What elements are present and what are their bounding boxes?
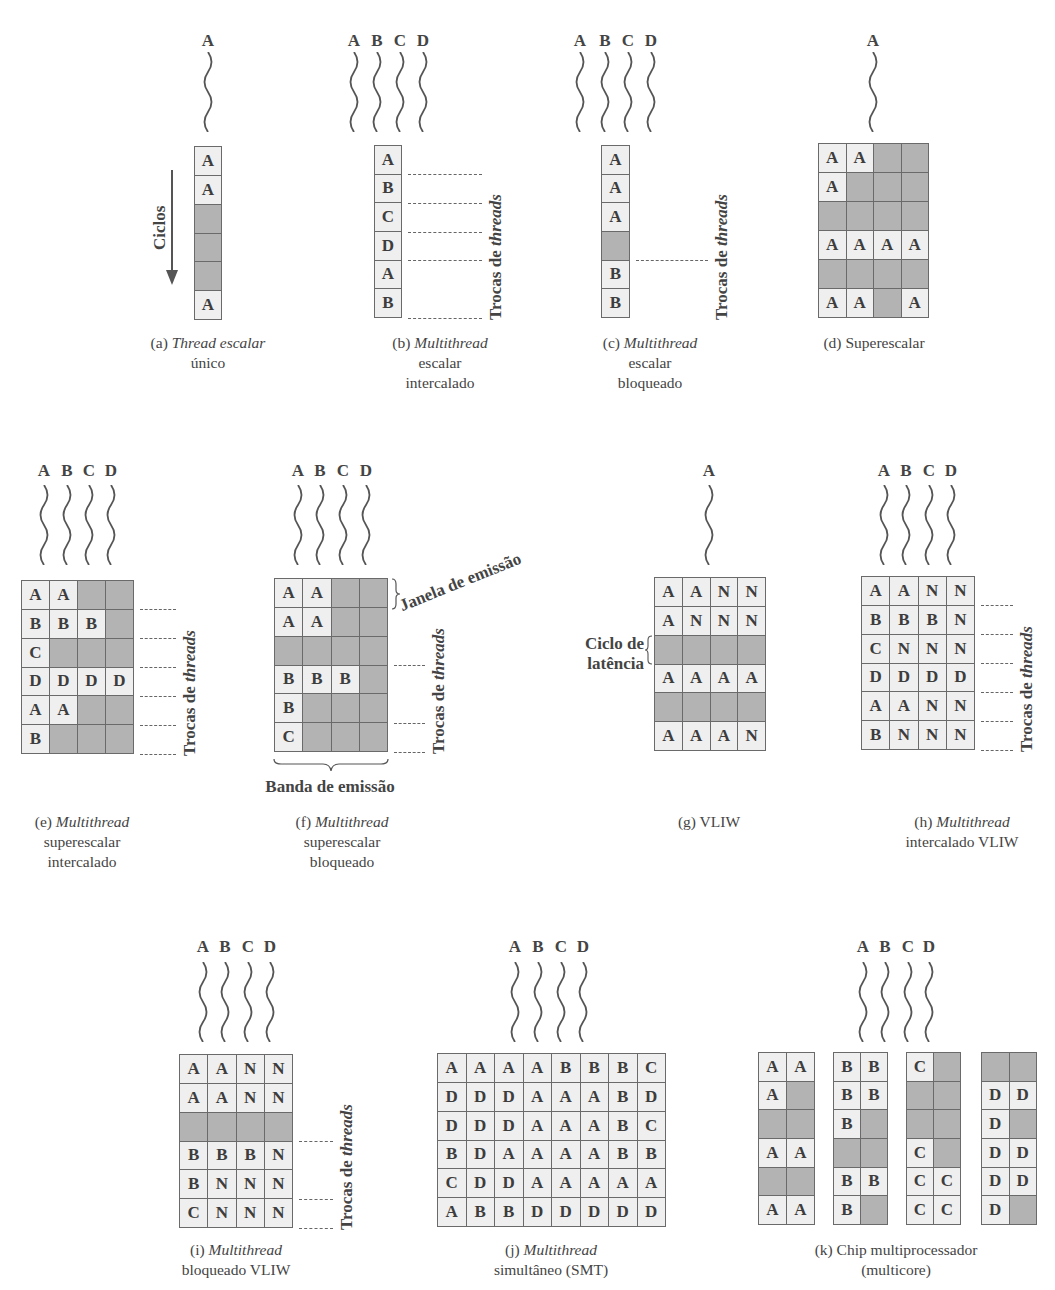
- issue-slot: N: [919, 577, 946, 605]
- thread-switch-line: [394, 752, 425, 753]
- caption-k: (k) Chip multiprocessador(multicore): [815, 1240, 978, 1280]
- issue-slot: D: [375, 232, 401, 260]
- issue-slot: N: [947, 692, 974, 720]
- issue-slot: A: [655, 665, 682, 693]
- empty-issue-slot: [303, 723, 330, 751]
- issue-slot: B: [834, 1110, 860, 1138]
- issue-slot: D: [919, 664, 946, 692]
- empty-issue-slot: [275, 637, 302, 665]
- empty-issue-slot: [874, 144, 901, 172]
- issue-slot: N: [947, 721, 974, 749]
- caption-g: (g) VLIW: [678, 812, 740, 832]
- issue-slot: A: [819, 231, 846, 259]
- empty-issue-slot: [332, 694, 359, 722]
- empty-issue-slot: [1010, 1053, 1037, 1081]
- thread-label: C: [919, 462, 939, 479]
- thread-switch-line: [140, 725, 176, 726]
- thread-switches-prefix: Trocas de: [180, 682, 199, 756]
- issue-slot: B: [237, 1142, 264, 1170]
- empty-issue-slot: [106, 725, 133, 753]
- thread-wave-icon: [264, 962, 278, 1042]
- empty-issue-slot: [78, 581, 105, 609]
- issue-slot: A: [208, 1084, 235, 1112]
- thread-label: D: [641, 32, 661, 49]
- thread-wave-icon: [703, 485, 717, 565]
- issue-slot: A: [303, 608, 330, 636]
- issue-slot: B: [834, 1082, 860, 1110]
- thread-switch-line: [981, 634, 1013, 635]
- issue-slot-brace-icon: [273, 758, 389, 772]
- empty-issue-slot: [683, 636, 710, 664]
- empty-issue-slot: [332, 637, 359, 665]
- empty-issue-slot: [1010, 1196, 1037, 1224]
- issue-slot: A: [581, 1169, 609, 1197]
- issue-slot: C: [934, 1168, 960, 1196]
- empty-issue-slot: [50, 639, 77, 667]
- down-arrow-icon: [165, 170, 179, 286]
- caption-b: (b) Multithreadescalarintercalado: [392, 333, 487, 393]
- issue-slot: A: [552, 1141, 580, 1169]
- issue-slot: A: [495, 1054, 523, 1082]
- thread-wave-icon: [292, 485, 306, 565]
- grid-g: AANNANNNAAAAAAAN: [654, 577, 766, 751]
- thread-switch-line: [636, 260, 708, 261]
- issue-slot: N: [890, 721, 917, 749]
- issue-slot: B: [180, 1142, 207, 1170]
- issue-slot: C: [907, 1053, 933, 1081]
- thread-label: A: [699, 462, 719, 479]
- issue-slot: B: [638, 1141, 666, 1169]
- thread-switch-line: [140, 754, 176, 755]
- empty-issue-slot: [847, 260, 874, 288]
- issue-slot: C: [907, 1196, 933, 1224]
- thread-label: D: [573, 938, 593, 955]
- thread-switches-label: Trocas de threads: [1017, 626, 1037, 752]
- issue-slot: N: [237, 1170, 264, 1198]
- thread-wave-icon: [337, 485, 351, 565]
- caption-italic: Multithread: [414, 334, 487, 351]
- issue-slot: A: [524, 1141, 552, 1169]
- issue-slot: A: [655, 578, 682, 606]
- empty-issue-slot: [78, 725, 105, 753]
- issue-slot: A: [683, 665, 710, 693]
- caption-letter: (a): [151, 334, 172, 351]
- caption-text: Superescalar: [845, 334, 924, 351]
- issue-slot: C: [907, 1139, 933, 1167]
- grid-j: AAAABBBCDDDAAABDDDDAAABCBDAAAABBCDDAAAAA…: [437, 1053, 666, 1227]
- latency-cycle-label: Ciclo delatência: [566, 634, 644, 673]
- issue-slot: N: [711, 578, 738, 606]
- issue-slot: A: [711, 722, 738, 750]
- issue-slot: D: [495, 1083, 523, 1111]
- issue-slot: B: [332, 666, 359, 694]
- issue-slot: B: [609, 1141, 637, 1169]
- thread-wave-icon: [371, 52, 385, 132]
- issue-slot: N: [890, 635, 917, 663]
- thread-switches-italic: threads: [180, 630, 199, 682]
- thread-switches-italic: threads: [337, 1104, 356, 1156]
- thread-wave-icon: [242, 962, 256, 1042]
- issue-slot: A: [602, 175, 629, 203]
- issue-slot: D: [1010, 1139, 1037, 1167]
- thread-label: B: [310, 462, 330, 479]
- issue-slot: A: [208, 1055, 235, 1083]
- thread-wave-icon: [394, 52, 408, 132]
- issue-slot: N: [711, 607, 738, 635]
- issue-slot: A: [581, 1083, 609, 1111]
- empty-issue-slot: [602, 232, 629, 260]
- thread-label: A: [34, 462, 54, 479]
- thread-switch-line: [140, 667, 176, 668]
- thread-wave-icon: [417, 52, 431, 132]
- grid-b: ABCDAB: [374, 145, 402, 318]
- issue-slot: N: [919, 692, 946, 720]
- issue-slot: N: [738, 722, 765, 750]
- caption-line: único: [151, 353, 266, 373]
- caption-e: (e) Multithreadsuperescalarintercalado: [35, 812, 130, 872]
- empty-issue-slot: [106, 639, 133, 667]
- issue-slot: A: [467, 1054, 495, 1082]
- issue-slot: D: [982, 1082, 1009, 1110]
- caption-letter: (e): [35, 813, 56, 830]
- issue-slot: D: [638, 1083, 666, 1111]
- caption-line: bloqueado VLIW: [182, 1260, 291, 1280]
- thread-switch-line: [140, 638, 176, 639]
- empty-issue-slot: [195, 234, 221, 262]
- thread-wave-icon: [219, 962, 233, 1042]
